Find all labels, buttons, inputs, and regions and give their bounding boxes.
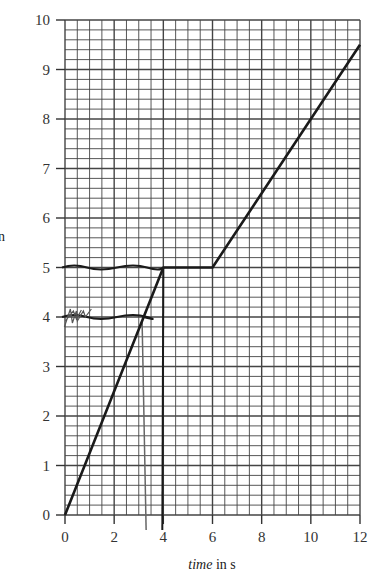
y-tick-label: 3 bbox=[43, 359, 51, 375]
y-tick-label: 2 bbox=[43, 408, 51, 424]
x-tick-label: 10 bbox=[303, 529, 318, 545]
y-tick-label: 9 bbox=[43, 62, 51, 78]
y-tick-label: 5 bbox=[43, 260, 51, 276]
x-tick-label: 12 bbox=[353, 529, 368, 545]
x-tick-label: 2 bbox=[110, 529, 118, 545]
y-tick-label: 10 bbox=[35, 12, 50, 28]
x-tick-label: 8 bbox=[258, 529, 266, 545]
y-tick-label: 8 bbox=[43, 111, 51, 127]
distance-time-chart: 012345678910024681012 n time in s bbox=[0, 0, 380, 576]
y-tick-label: 7 bbox=[43, 161, 51, 177]
x-axis-title-unit: in s bbox=[212, 557, 235, 572]
x-axis-title-quantity: time bbox=[188, 557, 212, 572]
x-tick-label: 4 bbox=[160, 529, 168, 545]
x-tick-label: 0 bbox=[61, 529, 69, 545]
x-tick-label: 6 bbox=[209, 529, 217, 545]
y-tick-label: 0 bbox=[43, 507, 51, 523]
y-tick-label: 4 bbox=[43, 309, 51, 325]
hand-drawn-vertical-line bbox=[162, 268, 163, 531]
x-axis-title: time in s bbox=[188, 557, 235, 572]
y-axis-label-partial: n bbox=[0, 229, 5, 244]
y-tick-label: 6 bbox=[43, 210, 51, 226]
y-tick-label: 1 bbox=[43, 458, 51, 474]
